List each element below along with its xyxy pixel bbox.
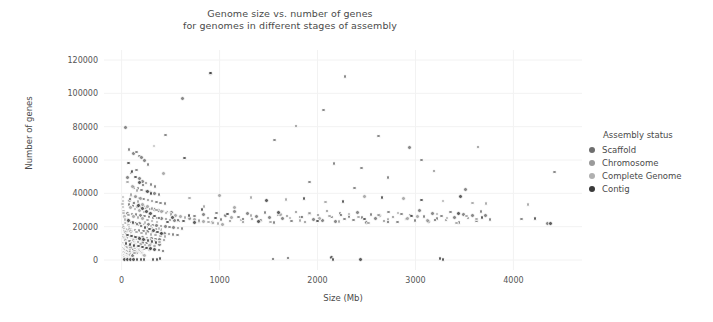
data-point — [386, 220, 391, 225]
legend-item-contig[interactable]: Contig — [589, 182, 709, 195]
data-point — [476, 145, 481, 150]
data-point — [484, 201, 489, 206]
data-point — [284, 197, 289, 202]
data-point — [286, 256, 291, 261]
legend-marker-icon — [589, 186, 595, 192]
data-point — [294, 210, 299, 215]
data-point — [448, 210, 453, 215]
legend-item-chromosome[interactable]: Chromosome — [589, 156, 709, 169]
data-point — [187, 196, 192, 201]
data-point — [232, 205, 237, 210]
data-point — [395, 220, 400, 225]
data-point — [401, 196, 406, 201]
data-point — [132, 251, 137, 256]
y-tick-label: 100000 — [42, 89, 98, 98]
data-point — [519, 217, 524, 222]
data-point — [134, 168, 139, 173]
data-point — [337, 219, 342, 224]
plot-area — [104, 50, 582, 270]
y-tick-label: 40000 — [42, 189, 98, 198]
data-points-layer — [104, 50, 582, 270]
data-point — [419, 158, 424, 163]
data-point — [456, 211, 461, 216]
data-point — [464, 214, 469, 219]
data-point — [294, 124, 299, 129]
data-point — [548, 221, 553, 226]
x-axis-label: Size (Mb) — [104, 293, 582, 303]
legend-item-complete-genome[interactable]: Complete Genome — [589, 169, 709, 182]
data-point — [220, 222, 225, 227]
data-point — [526, 202, 531, 207]
data-point — [187, 213, 192, 218]
data-point — [454, 221, 459, 226]
data-point — [413, 218, 418, 223]
data-point — [201, 212, 206, 217]
data-point — [331, 257, 336, 262]
data-point — [170, 215, 175, 220]
data-point — [263, 210, 268, 215]
x-tick-label: 2000 — [307, 276, 327, 285]
data-point — [276, 210, 281, 215]
data-point — [343, 74, 348, 79]
data-point — [225, 212, 230, 217]
data-point — [271, 257, 276, 262]
y-axis-label: Number of genes — [24, 78, 34, 188]
data-point — [125, 180, 130, 185]
data-point — [352, 186, 357, 191]
legend-marker-icon — [589, 147, 595, 153]
data-point — [272, 138, 277, 143]
x-tick-label: 1000 — [209, 276, 229, 285]
data-point — [133, 175, 138, 180]
y-tick-label: 20000 — [42, 222, 98, 231]
data-point — [175, 233, 180, 238]
data-point — [128, 205, 133, 210]
data-point — [417, 208, 422, 213]
data-point — [488, 217, 493, 222]
scatter-plot-figure: Genome size vs. number of genes for geno… — [0, 0, 713, 322]
data-point — [445, 216, 450, 221]
legend-item-scaffold[interactable]: Scaffold — [589, 143, 709, 156]
data-point — [131, 214, 136, 219]
x-tick-label: 4000 — [503, 276, 523, 285]
data-point — [130, 169, 135, 174]
data-point — [256, 219, 261, 224]
data-point — [376, 213, 381, 218]
y-tick-label: 120000 — [42, 56, 98, 65]
data-point — [159, 209, 164, 214]
data-point — [180, 226, 185, 231]
x-tick-label: 3000 — [405, 276, 425, 285]
data-point — [208, 71, 213, 76]
data-point — [415, 214, 420, 219]
data-point — [355, 210, 360, 215]
data-point — [303, 220, 308, 225]
data-point — [307, 180, 312, 185]
data-point — [419, 198, 424, 203]
data-point — [135, 188, 140, 193]
data-point — [157, 192, 162, 197]
data-point — [425, 218, 430, 223]
data-point — [161, 171, 166, 176]
data-point — [123, 125, 128, 130]
data-point — [302, 196, 307, 201]
data-point — [327, 214, 332, 219]
data-point — [533, 216, 538, 221]
data-point — [432, 169, 437, 174]
data-point — [213, 216, 218, 221]
legend-title: Assembly status — [589, 130, 709, 140]
data-point — [386, 175, 391, 180]
data-point — [192, 220, 197, 225]
data-point — [463, 187, 468, 192]
legend-item-label: Complete Genome — [602, 171, 682, 181]
data-point — [141, 183, 146, 188]
legend-entries: ScaffoldChromosomeComplete GenomeContig — [589, 143, 709, 195]
data-point — [439, 214, 444, 219]
data-point — [300, 215, 305, 220]
data-point — [163, 133, 168, 138]
legend-item-label: Scaffold — [602, 145, 636, 155]
y-tick-label: 60000 — [42, 156, 98, 165]
data-point — [321, 108, 326, 113]
data-point — [163, 201, 168, 206]
data-point — [391, 215, 396, 220]
data-point — [142, 257, 147, 262]
data-point — [211, 221, 216, 226]
